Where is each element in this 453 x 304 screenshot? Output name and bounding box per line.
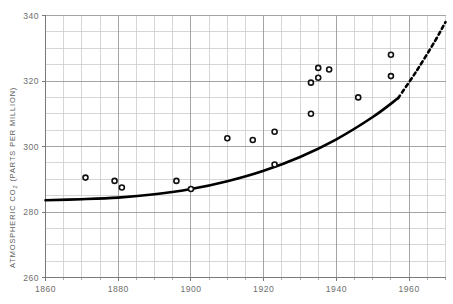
y-axis-tick-label: 280	[23, 207, 39, 217]
x-axis-tick-label: 1920	[253, 284, 274, 294]
y-axis-tick-label: 340	[23, 11, 39, 21]
y-axis-tick-label: 300	[23, 142, 39, 152]
x-axis-tick-label: 1860	[35, 284, 56, 294]
chart-background	[0, 0, 453, 304]
data-point-marker	[327, 67, 332, 72]
data-point-marker	[174, 178, 179, 183]
x-axis-tick-label: 1960	[399, 284, 420, 294]
data-point-marker	[356, 95, 361, 100]
data-point-marker	[250, 137, 255, 142]
data-point-marker	[272, 162, 277, 167]
data-point-marker	[83, 175, 88, 180]
y-axis-tick-label: 320	[23, 76, 39, 86]
data-point-marker	[308, 80, 313, 85]
data-point-marker	[188, 187, 193, 192]
co2-trend-chart: 186018801900192019401960 260280300320340…	[0, 0, 453, 304]
y-axis-tick-label: 260	[23, 273, 39, 283]
y-axis-title-text: ATMOSPHERIC CO2 (PARTS PER MILLION)	[8, 87, 18, 268]
y-axis-title: ATMOSPHERIC CO2 (PARTS PER MILLION)	[8, 87, 18, 268]
data-point-marker	[308, 111, 313, 116]
data-point-marker	[388, 52, 393, 57]
data-point-marker	[225, 136, 230, 141]
data-point-marker	[272, 129, 277, 134]
x-axis-tick-label: 1880	[108, 284, 129, 294]
data-point-marker	[316, 75, 321, 80]
x-axis-tick-label: 1940	[326, 284, 347, 294]
data-point-marker	[112, 178, 117, 183]
data-point-marker	[316, 65, 321, 70]
x-axis-tick-label: 1900	[180, 284, 201, 294]
chart-canvas: 186018801900192019401960 260280300320340…	[0, 0, 453, 304]
data-point-marker	[388, 74, 393, 79]
data-point-marker	[119, 185, 124, 190]
